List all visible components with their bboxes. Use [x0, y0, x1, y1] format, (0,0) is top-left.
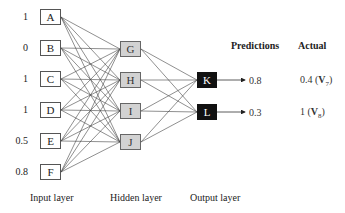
hidden-node-g: G [120, 41, 141, 57]
input-node-a: A [40, 9, 61, 25]
actual-header: Actual [298, 40, 326, 51]
input-value-c: 1 [4, 73, 28, 84]
input-node-c: C [40, 71, 61, 87]
output-node-k: K [197, 72, 217, 88]
input-value-e: 0.5 [4, 135, 28, 146]
input-value-a: 1 [4, 11, 28, 22]
output-layer-label: Output layer [190, 192, 240, 203]
actual-k-value: 0.4 [300, 74, 313, 85]
input-layer-label: Input layer [30, 192, 74, 203]
actual-k-var: V [318, 74, 325, 85]
hidden-layer-label: Hidden layer [110, 192, 162, 203]
actual-l-var: V [311, 106, 318, 117]
actual-l: 1 (V8) [300, 106, 325, 120]
input-value-f: 0.8 [4, 166, 28, 177]
hidden-node-j: J [120, 134, 141, 150]
predictions-header: Predictions [231, 40, 279, 51]
input-value-d: 1 [4, 104, 28, 115]
input-node-b: B [40, 40, 61, 56]
actual-l-value: 1 [300, 106, 305, 117]
prediction-l: 0.3 [249, 107, 262, 118]
actual-l-sub: 8 [318, 112, 322, 120]
input-node-d: D [40, 102, 61, 118]
prediction-k: 0.8 [249, 75, 262, 86]
hidden-node-i: I [120, 103, 141, 119]
input-value-b: 0 [4, 42, 28, 53]
actual-k: 0.4 (V7) [300, 74, 332, 88]
input-node-f: F [40, 164, 61, 180]
actual-k-sub: 7 [326, 80, 330, 88]
output-node-l: L [197, 104, 217, 120]
input-node-e: E [40, 133, 61, 149]
hidden-node-h: H [120, 72, 141, 88]
